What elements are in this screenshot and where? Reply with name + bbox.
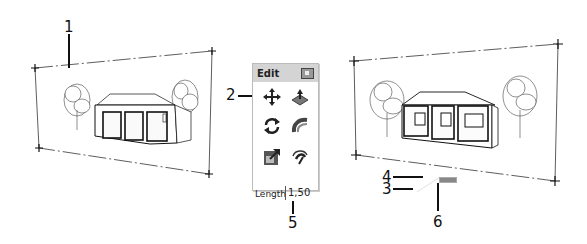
callout-6-number: 6: [433, 215, 443, 230]
inference-tooltip: [439, 177, 457, 183]
edit-toolbar: Edit: [252, 63, 319, 191]
right-image-plane[interactable]: [340, 20, 587, 210]
follow-me-icon: [290, 116, 310, 136]
callout-5-leader: [292, 201, 294, 214]
toolbar-header[interactable]: Edit: [253, 64, 318, 82]
rotate-tool-button[interactable]: [261, 115, 283, 137]
left-image-plane[interactable]: [25, 40, 255, 230]
callout-3-leader: [393, 188, 413, 190]
scale-tool-button[interactable]: [261, 146, 283, 168]
measurements-input[interactable]: 1,50: [285, 186, 310, 200]
offset-icon: [290, 147, 310, 167]
move-icon: [262, 87, 282, 107]
move-tool-button[interactable]: [261, 86, 283, 108]
callout-2-number: 2: [226, 88, 236, 103]
follow-me-tool-button[interactable]: [289, 115, 311, 137]
callout-1-number: 1: [64, 20, 74, 35]
rotate-icon: [262, 116, 282, 136]
push-pull-tool-button[interactable]: [289, 86, 311, 108]
callout-3-number: 3: [382, 182, 392, 197]
measurements-label: Length: [255, 189, 286, 199]
close-icon[interactable]: [301, 68, 314, 79]
toolbar-title: Edit: [257, 68, 279, 79]
callout-1-leader: [68, 34, 70, 68]
callout-5-number: 5: [288, 216, 298, 231]
offset-tool-button[interactable]: [289, 146, 311, 168]
push-pull-icon: [290, 87, 310, 107]
scale-icon: [262, 147, 282, 167]
callout-6-leader: [437, 183, 439, 211]
callout-4-leader: [393, 176, 423, 178]
